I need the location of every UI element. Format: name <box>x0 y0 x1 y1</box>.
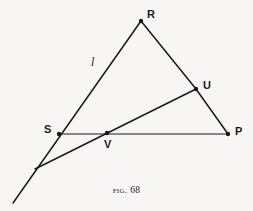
seg-R-T <box>13 21 141 203</box>
caption-prefix: Fig. <box>113 185 128 195</box>
point-label-S: S <box>44 124 52 135</box>
caption-number: 68 <box>130 185 140 195</box>
point-label-V: V <box>104 139 112 150</box>
point-marker-R <box>139 19 143 23</box>
figure-caption: Fig. 68 <box>0 186 253 196</box>
point-marker-S <box>57 132 61 136</box>
point-marker-group <box>57 19 230 136</box>
seg-U-P <box>196 89 228 134</box>
geometry-drawing <box>0 0 253 211</box>
point-label-U: U <box>203 80 211 91</box>
point-marker-V <box>105 131 109 135</box>
point-label-P: P <box>235 126 243 137</box>
segment-group <box>13 21 228 203</box>
seg-R-U <box>141 21 196 89</box>
point-marker-U <box>194 87 198 91</box>
seg-X-U <box>35 89 196 169</box>
figure-68: R U P S V l Fig. 68 <box>0 0 253 211</box>
point-marker-P <box>226 132 230 136</box>
line-label-l: l <box>91 56 94 68</box>
point-label-R: R <box>147 9 155 20</box>
